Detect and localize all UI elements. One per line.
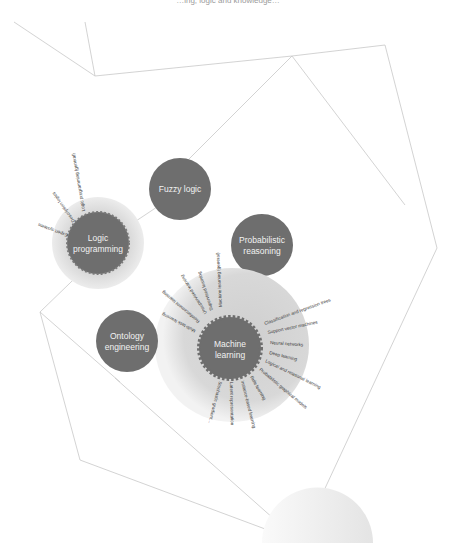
node-machine-learning[interactable]: Machine learning Multi-task learning Rei…: [155, 252, 332, 429]
ml-label-2: learning: [215, 350, 246, 360]
fuzzy-label: Fuzzy logic: [159, 184, 202, 194]
node-ontology-engineering[interactable]: Ontology engineering: [96, 310, 158, 372]
knowledge-map-diagram: …ing, logic and knowledge… Logic program…: [0, 0, 456, 558]
edge-top-left: [14, 22, 95, 76]
ml-label-1: Machine: [214, 339, 246, 349]
ontology-core: [96, 310, 158, 372]
ontology-label-2: engineering: [105, 342, 150, 352]
bottom-cluster-halo: [262, 488, 373, 544]
top-caption: …ing, logic and knowledge…: [176, 0, 280, 5]
logic-label-2: programming: [73, 244, 123, 254]
node-fuzzy-logic[interactable]: Fuzzy logic: [149, 158, 211, 220]
prob-core: [231, 214, 293, 276]
edge-right-diagonal: [292, 56, 405, 205]
node-probabilistic-reasoning[interactable]: Probabilistic reasoning: [231, 214, 293, 276]
node-logic-programming[interactable]: Logic programming Expert systems Descrip…: [36, 152, 144, 289]
logic-core: [67, 212, 129, 274]
ontology-label-1: Ontology: [110, 331, 145, 341]
logic-label-1: Logic: [88, 233, 109, 243]
leaf-latent-representation: Latent representation: [229, 382, 235, 426]
edge-to-fuzzy: [188, 56, 292, 160]
prob-label-1: Probabilistic: [239, 235, 286, 245]
prob-label-2: reasoning: [243, 246, 281, 256]
